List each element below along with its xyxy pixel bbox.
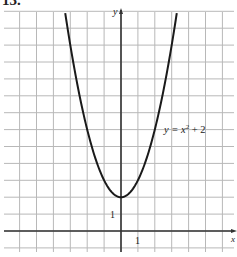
parabola-graph: y x 1 1 y = x2 + 2 (0, 0, 237, 257)
curve-equation-label: y = x2 + 2 (163, 123, 206, 135)
x-axis-arrow-icon (231, 229, 237, 233)
y-axis-label: y (112, 6, 118, 17)
y-tick-label: 1 (110, 209, 115, 220)
x-axis-label: x (230, 234, 235, 244)
x-tick-label: 1 (135, 235, 140, 246)
